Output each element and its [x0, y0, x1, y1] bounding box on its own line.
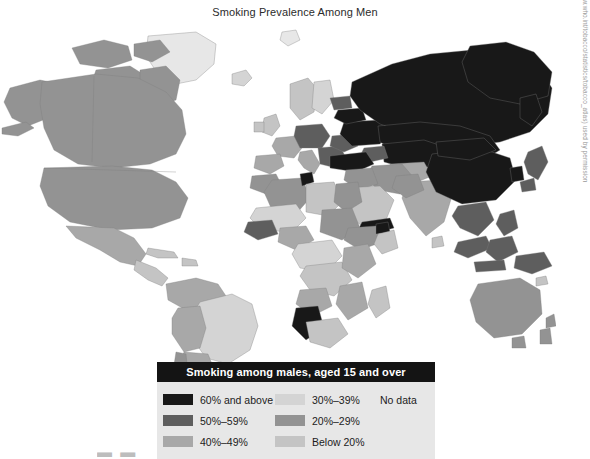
page-title: Smoking Prevalence Among Men: [0, 6, 590, 18]
page-bottom-artifact: ▬ ▬: [97, 443, 157, 457]
legend-label-below-20: Below 20%: [312, 436, 365, 448]
legend-swatch-60-and-above: [163, 394, 193, 405]
legend-column-2: 30%–39% 20%–29% Below 20%: [275, 389, 380, 452]
legend-column-1: 60% and above 50%–59% 40%–49%: [163, 389, 275, 452]
region-korea: [510, 166, 524, 182]
legend-entry-60-and-above: 60% and above: [163, 389, 275, 410]
attribution-text: © World Health Organization. (www.who.in…: [582, 0, 589, 176]
map-figure: Smoking Prevalence Among Men: [0, 0, 590, 459]
region-new-zealand-s: [540, 328, 552, 344]
legend-entry-below-20: Below 20%: [275, 431, 380, 452]
legend-entry-20-29: 20%–29%: [275, 410, 380, 431]
legend-swatch-30-39: [275, 394, 305, 405]
region-germany-poland: [294, 124, 330, 148]
legend-label-no-data: No data: [380, 394, 417, 406]
region-baltics: [330, 96, 352, 110]
world-map-svg: [0, 22, 556, 362]
legend-entry-50-59: 50%–59%: [163, 410, 275, 431]
legend-label-20-29: 20%–29%: [312, 415, 360, 427]
legend-label-30-39: 30%–39%: [312, 394, 360, 406]
legend-label-40-49: 40%–49%: [200, 436, 248, 448]
legend-entry-30-39: 30%–39%: [275, 389, 380, 410]
legend-swatch-below-20: [275, 436, 305, 447]
legend-swatch-40-49: [163, 436, 193, 447]
legend-swatch-50-59: [163, 415, 193, 426]
legend-entry-no-data: No data: [380, 389, 435, 410]
region-indonesia-java: [474, 260, 506, 272]
world-map-container: [0, 22, 556, 362]
legend-column-3: No data: [380, 389, 435, 452]
legend-label-50-59: 50%–59%: [200, 415, 248, 427]
region-sri-lanka: [432, 236, 444, 248]
region-tasmania: [512, 336, 526, 348]
map-legend: Smoking among males, aged 15 and over 60…: [157, 362, 435, 459]
legend-entry-40-49: 40%–49%: [163, 431, 275, 452]
legend-body: 60% and above 50%–59% 40%–49% 30%–39%: [157, 382, 435, 459]
legend-title: Smoking among males, aged 15 and over: [157, 362, 435, 382]
legend-swatch-20-29: [275, 415, 305, 426]
region-ireland: [254, 122, 264, 132]
legend-label-60-and-above: 60% and above: [200, 394, 273, 406]
